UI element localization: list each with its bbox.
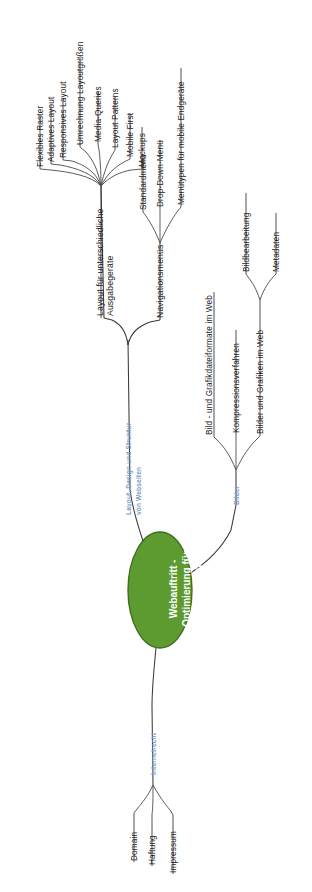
edge-leaf-impressum: [153, 785, 173, 815]
edge-leaf-responsives-layout: [63, 160, 101, 186]
branch-label-bilder[interactable]: Bilder: [232, 486, 242, 505]
node-label-navigationsmenues[interactable]: Navigationsmenüs: [156, 245, 166, 318]
node-label-bild-grafikdateiformate[interactable]: Bild - und Grafikdateiformate im Web: [205, 289, 215, 435]
node-label-dropdown-menue[interactable]: Drop-Down-Menü: [156, 140, 166, 207]
center-node-label: Webauftritt - Optimierung für Desktop un…: [168, 533, 218, 645]
edge-leaf-bilder-grafiken-web: [236, 436, 260, 470]
node-label-haftung[interactable]: Haftung: [148, 835, 158, 865]
node-label-responsives-layout[interactable]: Responsives Layout: [59, 81, 69, 158]
node-label-flexibles-raster[interactable]: Flexibles Raster: [36, 106, 46, 167]
node-label-domain[interactable]: Domain: [130, 832, 140, 861]
node-label-bilder-grafiken-im-web[interactable]: Bilder und Grafiken im Web: [256, 330, 266, 434]
node-label-impressum[interactable]: Impressum: [169, 831, 179, 873]
edge-leaf-metadaten: [260, 274, 276, 300]
node-label-layout-patterns[interactable]: Layout Patterns: [111, 88, 121, 148]
mindmap-canvas: Webauftritt - Optimierung für Desktop un…: [0, 0, 312, 892]
edge-layout-fork-lower: [128, 320, 160, 345]
edge-layout-fork-upper: [104, 318, 128, 345]
node-label-metadaten[interactable]: Metadaten: [272, 232, 282, 272]
edge-leaf-adaptives-layout: [51, 164, 101, 186]
node-label-umrechnung-layoutgroessen[interactable]: Umrechnung Layoutgrößen: [76, 42, 86, 145]
node-label-kompressionsverfahren[interactable]: Kompressionsverfahren: [232, 343, 242, 433]
node-label-media-queries[interactable]: Media-Queries: [94, 86, 104, 142]
edge-leaf-layout-patterns: [101, 150, 115, 186]
branch-label-layout-design[interactable]: Layout, Design und Struktur von Webseite…: [124, 411, 143, 515]
edge-leaf-bildbearbeitung: [246, 274, 260, 300]
node-label-standardmenue[interactable]: Standardmenü: [139, 154, 149, 210]
edge-leaf-standardmenue: [143, 212, 160, 243]
node-label-layout-ausgabegeraete[interactable]: Layout für unterschiedliche Ausgabegerät…: [96, 184, 115, 316]
edge-leaf-haftung: [152, 785, 153, 818]
node-label-mobile-first[interactable]: Mobile First: [126, 113, 136, 157]
edge-leaf-menuetypen: [160, 207, 181, 243]
branch-label-internetrecht[interactable]: Internetrecht: [149, 733, 159, 775]
node-label-bildbearbeitung[interactable]: Bildbearbeitung: [242, 213, 252, 272]
node-label-adaptives-layout[interactable]: Adaptives Layout: [47, 97, 57, 162]
node-label-menuetypen-mobile[interactable]: Menütypen für mobile Endgeräte: [177, 81, 187, 205]
edge-leaf-dateiformate: [214, 437, 236, 470]
edge-leaf-domain: [134, 785, 153, 813]
